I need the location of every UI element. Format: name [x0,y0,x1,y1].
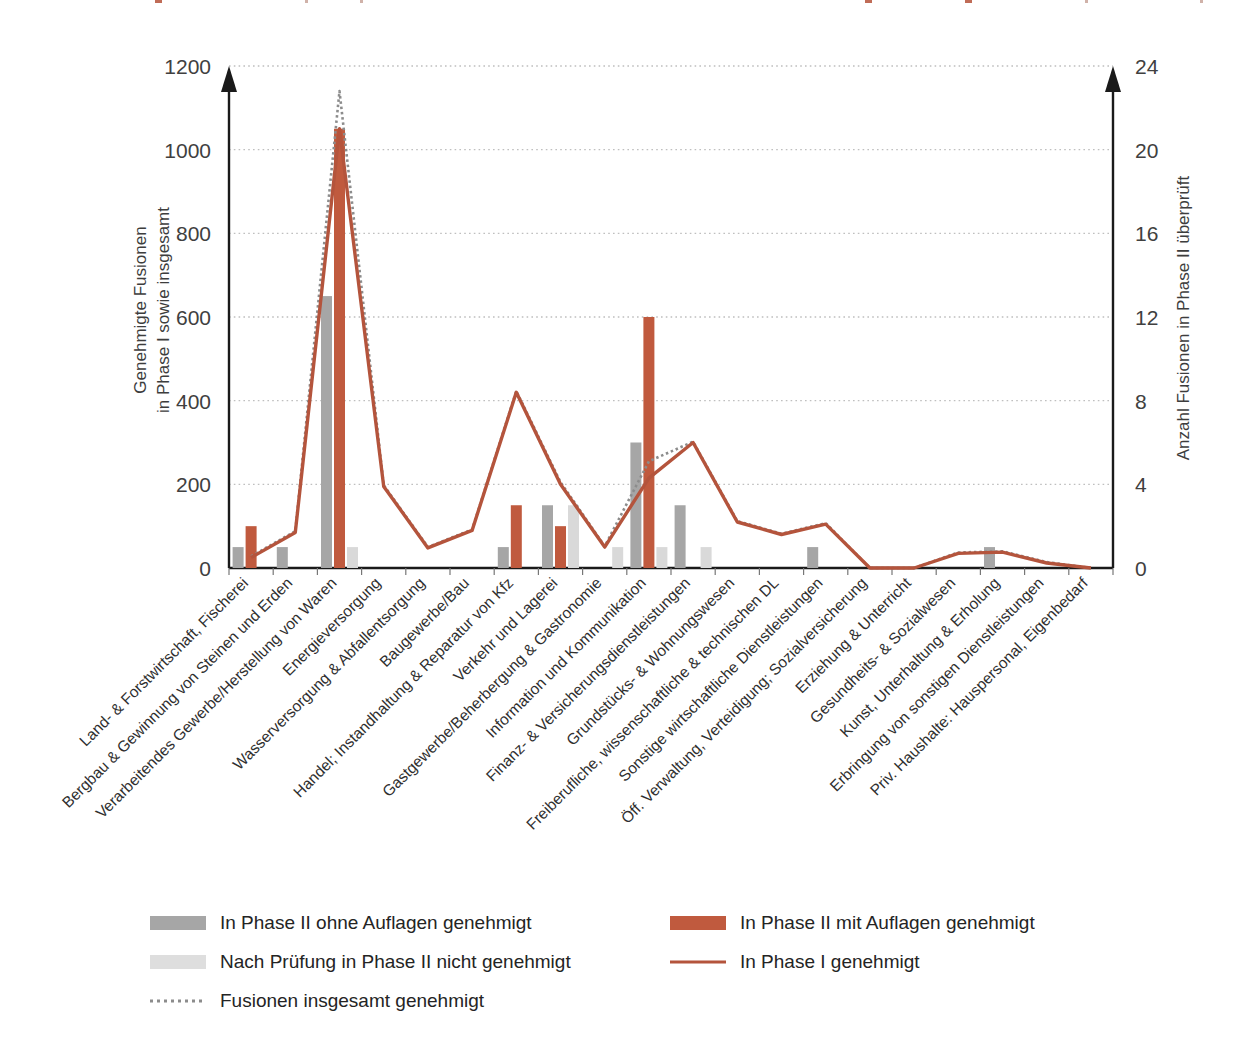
y2-axis-tick-label: 8 [1135,390,1147,413]
y2-axis-tick-labels: 04812162024 [1135,55,1159,580]
clipped-title-glyph [360,0,363,3]
bar [334,129,345,568]
x-axis-tick-marks [229,568,1113,575]
x-axis-category-label: Kunst, Unterhaltung & Erholung [836,574,1002,740]
bar [233,547,244,568]
bar [675,505,686,568]
y-axis-tick-label: 1000 [164,139,211,162]
right-axis-title-text: Anzahl Fusionen in Phase II überprüft [1174,175,1193,460]
y-axis-tick-label: 600 [176,306,211,329]
left-axis-title-line1: Genehmigte Fusionen [131,226,150,393]
clipped-title-glyph [965,0,972,3]
bar [612,547,623,568]
bar [542,505,553,568]
clipped-title-glyph [865,0,872,3]
bar [277,547,288,568]
legend-item-label: Nach Prüfung in Phase II nicht genehmigt [220,951,571,972]
merger-control-chart: 020040060080010001200 04812162024 Genehm… [0,0,1249,1060]
bar [246,526,257,568]
y2-axis-tick-label: 4 [1135,473,1147,496]
legend-item-label: In Phase I genehmigt [740,951,920,972]
legend-swatch-icon [670,916,726,930]
legend-item[interactable]: Nach Prüfung in Phase II nicht genehmigt [150,951,571,972]
bar [555,526,566,568]
legend-item-label: In Phase II ohne Auflagen genehmigt [220,912,532,933]
line-fusionen-insgesamt [251,91,1091,568]
bar [643,317,654,568]
chart-container: 020040060080010001200 04812162024 Genehm… [0,0,1249,1060]
right-axis-title: Anzahl Fusionen in Phase II überprüft [1174,175,1193,460]
legend-item[interactable]: In Phase II mit Auflagen genehmigt [670,912,1035,933]
y-axis-tick-label: 1200 [164,55,211,78]
clipped-title-glyph [1200,0,1203,3]
bar [701,547,712,568]
y-axis-tick-label: 0 [199,557,211,580]
bar [511,505,522,568]
x-axis-category-label: Land- & Forstwirtschaft, Fischerei [76,574,251,749]
y2-axis-tick-label: 16 [1135,222,1158,245]
clipped-title-glyph [1085,0,1088,3]
bar-series [347,505,712,568]
clipped-title-glyph [305,0,308,3]
clipped-title-glyph [155,0,162,3]
legend-swatch-icon [150,916,206,930]
line-phase-i-genehmigt [251,129,1091,568]
y2-axis-tick-label: 24 [1135,55,1159,78]
total-mergers-dotted-line [251,91,1091,568]
left-axis-title: Genehmigte Fusionen in Phase I sowie ins… [131,207,173,413]
chart-title-clipped [155,0,1203,3]
legend-item[interactable]: Fusionen insgesamt genehmigt [150,990,485,1011]
bar [498,547,509,568]
legend-item-label: In Phase II mit Auflagen genehmigt [740,912,1035,933]
bar [321,296,332,568]
phase-i-line [251,129,1091,568]
y-axis-tick-label: 800 [176,222,211,245]
y2-axis-tick-label: 20 [1135,139,1158,162]
bar-series [246,129,655,568]
legend-swatch-icon [150,955,206,969]
y2-axis-tick-label: 12 [1135,306,1158,329]
bar [568,505,579,568]
y-axis-tick-label: 200 [176,473,211,496]
x-axis-category-label: Information und Kommunikation [482,574,649,741]
chart-legend: In Phase II ohne Auflagen genehmigtIn Ph… [150,912,1035,1011]
y2-axis-tick-label: 0 [1135,557,1147,580]
bar [984,547,995,568]
x-axis-category-labels: Land- & Forstwirtschaft, FischereiBergba… [59,574,1092,833]
gridlines [229,66,1113,484]
left-axis-title-line2: in Phase I sowie insgesamt [154,207,173,413]
bar [807,547,818,568]
legend-item[interactable]: In Phase II ohne Auflagen genehmigt [150,912,532,933]
x-axis-category-label: Bergbau & Gewinnung von Steinen und Erde… [59,574,296,811]
legend-item[interactable]: In Phase I genehmigt [670,951,920,972]
x-axis-category-label: Finanz- & Versicherungsdienstleistungen [483,574,694,785]
bar [656,547,667,568]
y-axis-tick-label: 400 [176,390,211,413]
bar [347,547,358,568]
legend-item-label: Fusionen insgesamt genehmigt [220,990,485,1011]
x-axis-category-label: Sonstige wirtschaftliche Dienstleistunge… [615,574,826,785]
